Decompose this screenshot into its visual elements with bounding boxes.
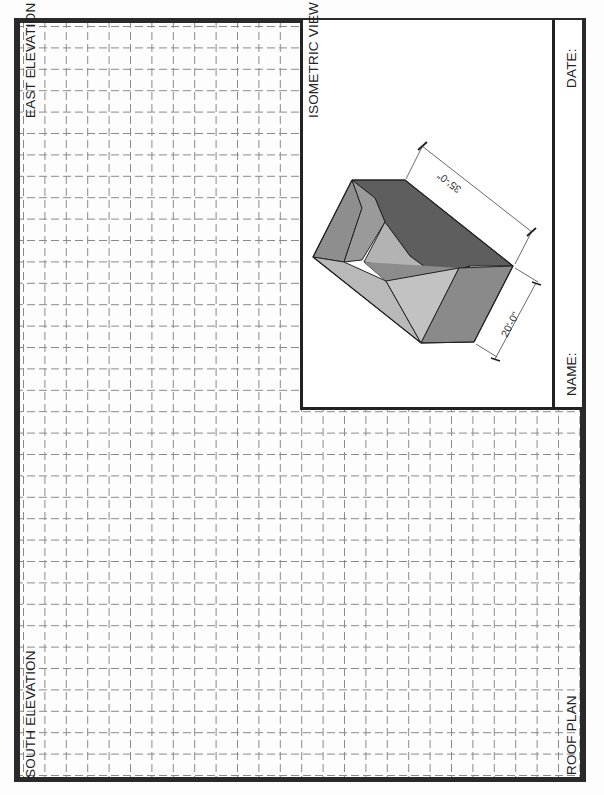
isometric-roof-drawing: 35'-0" 20'-0": [0, 0, 604, 795]
date-field-label: DATE:: [564, 48, 579, 88]
extension-line-right: [515, 231, 532, 264]
dimension-label-length: 35'-0": [435, 170, 464, 196]
dimension-label-width: 20'-0": [498, 309, 521, 338]
extension-line-right-2: [515, 268, 538, 282]
roof-plan-label: ROOF PLAN: [564, 695, 579, 775]
east-elevation-label: EAST ELEVATION: [23, 3, 38, 118]
south-elevation-label: SOUTH ELEVATION: [23, 650, 38, 778]
extension-line-top: [406, 145, 423, 179]
name-field-label: NAME:: [564, 352, 579, 396]
drawing-worksheet: 35'-0" 20'-0" EAST ELEVATION SOUTH ELEVA…: [0, 0, 604, 795]
extension-line-bottom: [476, 344, 497, 357]
dimension-tick: [532, 282, 541, 285]
isometric-view-label: ISOMETRIC VIEW: [306, 2, 321, 118]
